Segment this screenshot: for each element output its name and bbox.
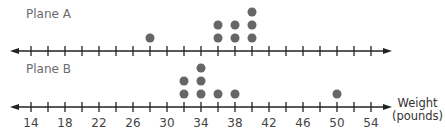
svg-text:26: 26 [125, 116, 140, 130]
svg-text:54: 54 [363, 116, 378, 130]
svg-text:34: 34 [193, 116, 208, 130]
x-axis-tick-labels: 1418222630343842465054 [23, 116, 378, 130]
svg-text:18: 18 [57, 116, 72, 130]
svg-text:46: 46 [295, 116, 310, 130]
dots-plane-b [180, 64, 342, 99]
number-line-plane-b [10, 102, 392, 112]
number-line-plane-a [10, 46, 392, 56]
svg-text:22: 22 [91, 116, 106, 130]
svg-text:30: 30 [159, 116, 174, 130]
dots-plane-a [146, 8, 257, 43]
x-axis-title: Weight (pounds) [390, 97, 445, 123]
svg-text:14: 14 [23, 116, 38, 130]
x-axis-title-line2: (pounds) [390, 110, 445, 123]
svg-text:38: 38 [227, 116, 242, 130]
svg-text:42: 42 [261, 116, 276, 130]
dot-plot: 1418222630343842465054 [0, 0, 445, 136]
svg-text:50: 50 [329, 116, 344, 130]
